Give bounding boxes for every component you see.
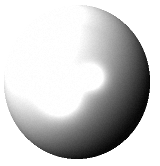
shaded-sphere [0, 0, 160, 166]
image-canvas-stage: <div class="sphere-fallback" style="left… [0, 0, 160, 166]
